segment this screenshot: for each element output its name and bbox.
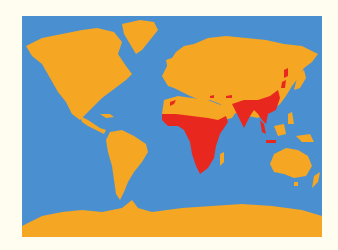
world-map bbox=[22, 16, 322, 237]
range-java[interactable] bbox=[266, 140, 276, 143]
tasmania bbox=[294, 182, 298, 186]
